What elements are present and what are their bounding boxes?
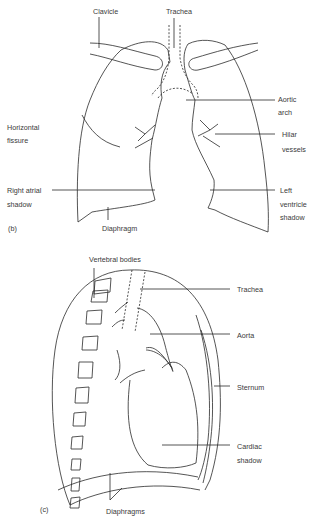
label-cardiac-shadow-1: Cardiac bbox=[237, 442, 262, 451]
label-sternum: Sternum bbox=[237, 383, 264, 392]
label-trachea-c: Trachea bbox=[237, 285, 263, 294]
label-left-ventricle-3: shadow bbox=[280, 213, 306, 222]
posterior-mediastinum-lines bbox=[112, 302, 145, 383]
trachea-lateral-back bbox=[135, 272, 145, 332]
label-aortic-arch-2: arch bbox=[278, 108, 292, 117]
left-clavicle bbox=[189, 43, 258, 70]
label-right-atrial-1: Right atrial bbox=[7, 186, 42, 195]
label-hilar-vessels-2: vessels bbox=[282, 145, 306, 154]
label-cardiac-shadow-2: shadow bbox=[237, 456, 263, 465]
right-lung-outline bbox=[77, 42, 170, 222]
label-vertebral-bodies: Vertebral bodies bbox=[89, 255, 141, 264]
trachea-lateral-front bbox=[122, 270, 132, 330]
right-hilar-vessels bbox=[135, 125, 155, 148]
label-left-ventricle-2: ventricle bbox=[280, 200, 307, 209]
diaphragms-pointer bbox=[110, 473, 122, 500]
label-horizontal-fissure-1: Horizontal bbox=[7, 123, 40, 132]
sternum bbox=[196, 315, 213, 483]
label-hilar-vessels-1: Hilar bbox=[282, 130, 297, 139]
label-aortic-arch-1: Aortic bbox=[278, 95, 297, 104]
carina-outline bbox=[158, 88, 193, 98]
trachea-outline-left bbox=[152, 25, 169, 96]
horizontal-fissure bbox=[82, 115, 120, 147]
label-diaphragm: Diaphragm bbox=[102, 224, 137, 233]
panel-label-b: (b) bbox=[8, 224, 17, 233]
left-lung-outline bbox=[184, 40, 268, 232]
figure-c-lateral: Vertebral bodies Trachea Aorta Sternum C… bbox=[40, 255, 264, 516]
left-hilar-vessels bbox=[198, 120, 220, 147]
label-horizontal-fissure-2: fissure bbox=[7, 136, 28, 145]
vertebral-bodies bbox=[70, 278, 111, 508]
figure-b-frontal: Clavicle Trachea Aortic arch Horizontal … bbox=[7, 7, 307, 233]
chest-xray-diagram: Clavicle Trachea Aortic arch Horizontal … bbox=[0, 0, 315, 517]
label-left-ventricle-1: Left bbox=[280, 186, 292, 195]
trachea-outline-right bbox=[180, 25, 198, 98]
label-right-atrial-2: shadow bbox=[7, 200, 33, 209]
label-diaphragms: Diaphragms bbox=[106, 507, 145, 516]
cardiac-shadow bbox=[128, 362, 198, 468]
label-clavicle: Clavicle bbox=[93, 7, 118, 16]
label-aorta: Aorta bbox=[237, 331, 254, 340]
panel-label-c: (c) bbox=[40, 505, 48, 514]
label-trachea-b: Trachea bbox=[166, 7, 192, 16]
diaphragm-lower bbox=[70, 486, 200, 505]
